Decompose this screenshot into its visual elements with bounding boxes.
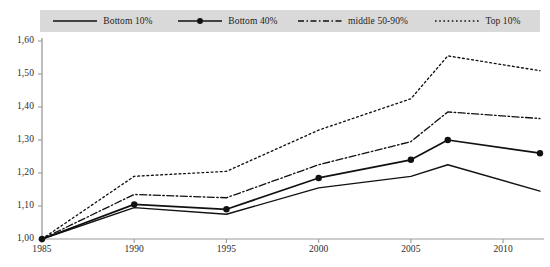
y-axis-tick-label: 1,30 xyxy=(2,134,34,144)
x-axis-tick-label: 2010 xyxy=(480,244,526,254)
x-axis-tick-label: 1995 xyxy=(203,244,249,254)
series-line-2 xyxy=(42,140,540,239)
x-axis-tick-label: 1990 xyxy=(111,244,157,254)
y-axis-tick-label: 1,00 xyxy=(2,233,34,243)
series-line-1 xyxy=(42,165,540,239)
x-axis-tick-label: 1985 xyxy=(19,244,65,254)
x-axis-tick-label: 2005 xyxy=(388,244,434,254)
series-marker xyxy=(131,201,137,207)
series-line-3 xyxy=(42,112,540,239)
series-marker xyxy=(537,150,543,156)
chart-plot-area xyxy=(0,0,550,267)
y-axis-tick-label: 1,20 xyxy=(2,167,34,177)
series-marker xyxy=(408,157,414,163)
y-axis-tick-label: 1,40 xyxy=(2,101,34,111)
y-axis-tick-label: 1,50 xyxy=(2,68,34,78)
y-axis-tick-label: 1,60 xyxy=(2,35,34,45)
x-axis-tick-label: 2000 xyxy=(296,244,342,254)
series-marker xyxy=(445,137,451,143)
series-marker xyxy=(223,206,229,212)
series-marker xyxy=(315,175,321,181)
y-axis-tick-label: 1,10 xyxy=(2,200,34,210)
chart-page: Bottom 10%Bottom 40%middle 50-90%Top 10%… xyxy=(0,0,550,267)
